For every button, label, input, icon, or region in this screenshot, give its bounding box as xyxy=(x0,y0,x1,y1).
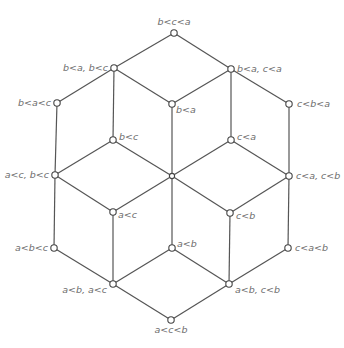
node-ac xyxy=(110,209,116,215)
label-ba-ca: b<a, c<a xyxy=(237,63,282,74)
edge xyxy=(57,68,114,103)
node-ab xyxy=(169,245,175,251)
edge xyxy=(114,33,174,68)
node-bc xyxy=(110,137,116,143)
hasse-diagram: b<c<a b<a, b<c b<a, c<a b<a<c b<a c<b<a … xyxy=(0,0,344,348)
label-a-b-c: a<b<c xyxy=(15,242,49,253)
node-ab-cb xyxy=(226,281,232,287)
label-ba: b<a xyxy=(176,104,196,115)
node-center xyxy=(169,173,174,178)
label-bc: b<c xyxy=(119,131,139,142)
edge xyxy=(55,103,57,175)
label-ba-bc: b<a, b<c xyxy=(63,62,109,73)
edge xyxy=(113,68,114,140)
label-c-a-b: c<a<b xyxy=(295,242,328,253)
node-cb xyxy=(227,210,233,216)
edge xyxy=(113,176,172,212)
edge xyxy=(174,33,231,69)
node-b-c-a xyxy=(171,30,177,36)
edge xyxy=(229,248,288,284)
label-ab-cb: a<b, c<b xyxy=(235,284,280,295)
edge xyxy=(114,68,172,104)
label-ca-cb: c<a, c<b xyxy=(296,170,340,181)
node-a-c-b xyxy=(168,317,174,323)
node-ca-cb xyxy=(286,173,292,179)
label-a-c-b: a<c<b xyxy=(155,324,188,335)
edge xyxy=(172,176,230,213)
node-ba xyxy=(169,101,175,107)
edge xyxy=(55,175,113,212)
edge xyxy=(231,140,289,176)
node-ba-ca xyxy=(228,66,234,72)
edge xyxy=(113,284,171,320)
node-ab-ac xyxy=(110,281,116,287)
label-ca: c<a xyxy=(237,131,256,142)
label-ac-bc: a<c, b<c xyxy=(5,169,50,180)
label-ac: a<c xyxy=(118,209,138,220)
edge xyxy=(171,284,229,320)
node-ac-bc xyxy=(52,172,58,178)
edge xyxy=(288,176,289,248)
node-ca xyxy=(228,137,234,143)
node-c-a-b xyxy=(285,245,291,251)
edge xyxy=(172,248,229,284)
edge xyxy=(54,175,55,248)
label-c-b-a: c<b<a xyxy=(297,98,330,109)
edge xyxy=(113,248,172,284)
node-c-b-a xyxy=(286,101,292,107)
edge xyxy=(55,140,113,175)
label-ab-ac: a<b, a<c xyxy=(62,284,108,295)
edge xyxy=(54,248,113,284)
node-b-a-c xyxy=(54,100,60,106)
node-a-b-c xyxy=(51,245,57,251)
label-ab: a<b xyxy=(177,238,197,249)
edge xyxy=(172,140,231,176)
edge xyxy=(230,176,289,213)
edge xyxy=(231,69,289,104)
node-ba-bc xyxy=(111,65,117,71)
edge xyxy=(113,140,172,176)
edge xyxy=(229,213,230,284)
label-cb: c<b xyxy=(236,210,255,221)
edge xyxy=(172,69,231,104)
label-b-a-c: b<a<c xyxy=(18,97,52,108)
label-b-c-a: b<c<a xyxy=(158,16,191,27)
